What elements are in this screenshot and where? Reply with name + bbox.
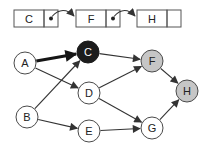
pointer-dot-icon xyxy=(111,17,115,21)
list-node-label: C xyxy=(25,13,33,25)
graph-node-label-D: D xyxy=(85,87,93,99)
list-node-H: H xyxy=(137,10,181,27)
graph-node-F: F xyxy=(141,50,163,72)
graph-node-label-H: H xyxy=(183,85,191,97)
linked-list-and-graph-diagram: CFHABCDEFGH xyxy=(0,0,212,150)
graph-edge-G-H xyxy=(160,100,179,120)
list-node-F: F xyxy=(76,10,135,27)
graph-node-label-G: G xyxy=(148,122,157,134)
graph-node-D: D xyxy=(78,82,100,104)
graph-edge-B-E xyxy=(38,120,77,129)
graph-edge-F-H xyxy=(161,68,178,83)
list-node-pointer-cell xyxy=(167,10,181,27)
graph-node-G: G xyxy=(141,117,163,139)
list-node-label: H xyxy=(148,13,156,25)
graph-edge-D-F xyxy=(99,66,141,87)
graph-edge-B-C xyxy=(35,61,80,109)
diagram-canvas: CFHABCDEFGH xyxy=(0,0,212,150)
graph-node-C: C xyxy=(77,41,99,63)
graph-node-B: B xyxy=(16,106,38,128)
graph-edge-E-G xyxy=(100,129,140,131)
list-node-C: C xyxy=(14,10,74,27)
next-pointer-arrow xyxy=(52,10,74,16)
graph-edge-C-F xyxy=(99,54,140,60)
graph-edge-A-C xyxy=(36,54,76,61)
graph-node-label-A: A xyxy=(21,57,29,69)
graph-node-label-B: B xyxy=(23,111,30,123)
next-pointer-arrow xyxy=(114,10,135,16)
pointer-dot-icon xyxy=(49,17,53,21)
graph-node-label-F: F xyxy=(149,55,156,67)
graph-node-H: H xyxy=(176,80,198,102)
graph-node-E: E xyxy=(78,120,100,142)
graph-node-label-C: C xyxy=(84,46,92,58)
graph-node-label-E: E xyxy=(85,125,92,137)
list-node-label: F xyxy=(88,13,95,25)
graph-edge-D-G xyxy=(99,99,141,123)
graph-node-A: A xyxy=(14,52,36,74)
